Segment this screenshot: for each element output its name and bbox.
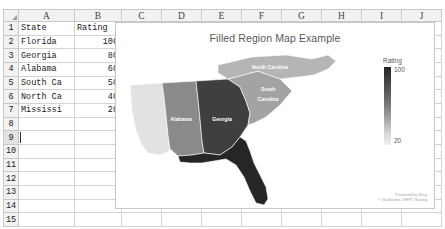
cell-a2-value: Florida (19, 37, 74, 47)
cell-a3[interactable]: Georgia (19, 49, 75, 63)
row-header-14[interactable]: 14 (4, 199, 19, 213)
label-alabama: Alabama (170, 116, 192, 122)
row-header-9[interactable]: 9 (4, 131, 19, 145)
label-florida: Florida (226, 174, 243, 180)
cell-a8[interactable] (19, 117, 75, 131)
map-plot-area[interactable]: North Carolina South Carolina Georgia Al… (122, 49, 380, 207)
column-header-h[interactable]: H (322, 10, 362, 22)
cell-a7-value: Mississi (19, 105, 74, 115)
attribution-copyright: © GeoNames, MSFT, Navteq (378, 198, 427, 203)
cell-a1[interactable]: State (19, 22, 75, 36)
cell-a12[interactable] (19, 172, 75, 186)
chart-title: Filled Region Map Example (116, 32, 434, 44)
cell-a2[interactable]: Florida (19, 35, 75, 49)
cell-d15[interactable] (162, 213, 202, 227)
cell-h15[interactable] (322, 213, 362, 227)
map-svg: North Carolina South Carolina Georgia Al… (122, 49, 380, 207)
cell-g15[interactable] (282, 213, 322, 227)
cell-a10[interactable] (19, 144, 75, 158)
label-georgia: Georgia (212, 116, 232, 122)
excel-worksheet-window: A B C D E F G H I J 1 State Rating (0, 0, 445, 229)
cell-a5[interactable]: South Ca (19, 76, 75, 90)
column-header-j[interactable]: J (402, 10, 442, 22)
legend-min-label: 20 (394, 137, 401, 144)
row-header-15[interactable]: 15 (4, 213, 19, 227)
legend-max-label: 100 (394, 66, 405, 73)
legend-gradient-body: 100 20 (380, 67, 426, 149)
cell-c15[interactable] (122, 213, 162, 227)
row-header-4[interactable]: 4 (4, 62, 19, 76)
cell-b15[interactable] (75, 213, 122, 227)
cell-a14[interactable] (19, 199, 75, 213)
column-header-i[interactable]: I (362, 10, 402, 22)
table-row: 15 (4, 213, 442, 227)
chart-legend: Rating 100 20 (380, 57, 426, 153)
row-header-12[interactable]: 12 (4, 172, 19, 186)
row-header-6[interactable]: 6 (4, 90, 19, 104)
row-header-11[interactable]: 11 (4, 158, 19, 172)
cell-a4[interactable]: Alabama (19, 62, 75, 76)
row-header-2[interactable]: 2 (4, 35, 19, 49)
cell-a15[interactable] (19, 213, 75, 227)
cell-a7[interactable]: Mississi (19, 103, 75, 117)
column-header-c[interactable]: C (122, 10, 162, 22)
cell-a3-value: Georgia (19, 51, 74, 61)
legend-gradient-bar (384, 67, 391, 145)
row-header-3[interactable]: 3 (4, 49, 19, 63)
map-attribution: Powered by Bing © GeoNames, MSFT, Navteq (378, 192, 427, 203)
row-header-5[interactable]: 5 (4, 76, 19, 90)
cell-a4-value: Alabama (19, 64, 74, 74)
label-south-carolina-line2: Carolina (258, 96, 279, 102)
select-all-corner[interactable] (4, 10, 19, 22)
row-header-13[interactable]: 13 (4, 185, 19, 199)
column-header-g[interactable]: G (282, 10, 322, 22)
filled-region-map-chart[interactable]: Filled Region Map Example North Carolina… (115, 22, 435, 209)
cell-a5-value: South Ca (19, 78, 74, 88)
label-north-carolina: North Carolina (252, 64, 288, 70)
column-header-row: A B C D E F G H I J (4, 10, 442, 22)
legend-title: Rating (380, 57, 426, 64)
cell-a11[interactable] (19, 158, 75, 172)
column-header-b[interactable]: B (75, 10, 122, 22)
cell-a6[interactable]: North Ca (19, 90, 75, 104)
cell-j15[interactable] (402, 213, 442, 227)
column-header-e[interactable]: E (202, 10, 242, 22)
column-header-d[interactable]: D (162, 10, 202, 22)
label-south-carolina-line1: South (261, 86, 276, 92)
row-header-7[interactable]: 7 (4, 103, 19, 117)
cell-e15[interactable] (202, 213, 242, 227)
cell-f15[interactable] (242, 213, 282, 227)
cell-a9[interactable] (19, 131, 75, 145)
row-header-1[interactable]: 1 (4, 22, 19, 36)
row-header-10[interactable]: 10 (4, 144, 19, 158)
column-header-f[interactable]: F (242, 10, 282, 22)
cell-a13[interactable] (19, 185, 75, 199)
column-header-a[interactable]: A (19, 10, 75, 22)
cell-i15[interactable] (362, 213, 402, 227)
cell-a6-value: North Ca (19, 92, 74, 102)
cell-a1-value: State (19, 23, 74, 33)
row-header-8[interactable]: 8 (4, 117, 19, 131)
